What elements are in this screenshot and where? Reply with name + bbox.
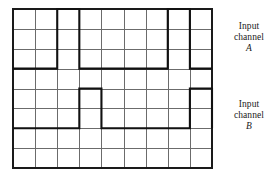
label-channel-b-name: B xyxy=(221,121,277,132)
label-channel-a-line1: Input xyxy=(221,21,277,32)
label-channel-a-name: A xyxy=(221,43,277,54)
label-channel-b-line1: Input xyxy=(221,99,277,110)
label-channel-a: Input channel A xyxy=(221,21,277,55)
figure-root: Input channel A Input channel B xyxy=(0,0,279,178)
label-channel-a-line2: channel xyxy=(221,32,277,43)
label-channel-b-line2: channel xyxy=(221,110,277,121)
label-channel-b: Input channel B xyxy=(221,99,277,133)
